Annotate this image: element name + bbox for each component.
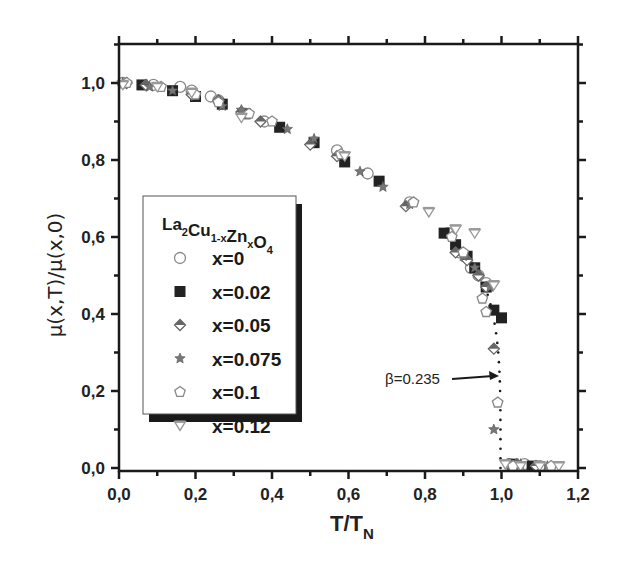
triangle-marker-icon (423, 208, 434, 217)
circle-marker-icon (175, 253, 186, 264)
x-axis-title: T/TN (330, 511, 374, 542)
x-tick-label: 1,2 (566, 485, 590, 504)
pentagon-marker-icon (477, 293, 488, 303)
legend: La2Cu1-xZnxO4 x=0x=0.02x=0.05x=0.075x=0.… (143, 196, 302, 437)
annotation-arrow (452, 376, 493, 379)
pentagon-marker-icon (492, 397, 503, 407)
y-axis-title: μ(x,T)/μ(x,0) (43, 213, 67, 338)
beta-label: β=0.235 (385, 370, 440, 387)
x-tick-labels: 0,00,20,40,60,81,01,2 (107, 485, 590, 504)
y-tick-label: 0,2 (81, 382, 105, 401)
legend-label: x=0.075 (212, 349, 282, 370)
y-tick-label: 0,8 (81, 151, 105, 170)
square-marker-icon (175, 286, 186, 297)
legend-label: x=0 (212, 248, 244, 269)
x-tick-label: 0,6 (337, 485, 361, 504)
beta-annotation: β=0.235 (385, 370, 499, 387)
y-tick-label: 0,4 (81, 305, 105, 324)
x-tick-label: 0,2 (184, 485, 208, 504)
triangle-marker-icon (469, 229, 480, 238)
y-tick-labels: 0,00,20,40,60,81,0 (81, 74, 105, 478)
legend-label: x=0.02 (212, 282, 271, 303)
y-tick-label: 0,0 (81, 459, 105, 478)
legend-label: x=0.05 (212, 315, 271, 336)
arrow-head-icon (489, 371, 499, 380)
x-tick-label: 0,4 (260, 485, 284, 504)
y-tick-label: 0,6 (81, 228, 105, 247)
chart-canvas: 0,00,20,40,60,81,01,2 0,00,20,40,60,81,0… (0, 0, 618, 568)
x-tick-label: 0,0 (107, 485, 131, 504)
star-marker-icon (489, 424, 500, 434)
y-tick-label: 1,0 (81, 74, 105, 93)
x-tick-label: 1,0 (490, 485, 514, 504)
legend-label: x=0.1 (212, 382, 261, 403)
square-marker-icon (496, 312, 507, 323)
legend-label: x=0.12 (212, 416, 271, 437)
x-tick-label: 0,8 (413, 485, 437, 504)
triangle-marker-icon (175, 422, 186, 431)
